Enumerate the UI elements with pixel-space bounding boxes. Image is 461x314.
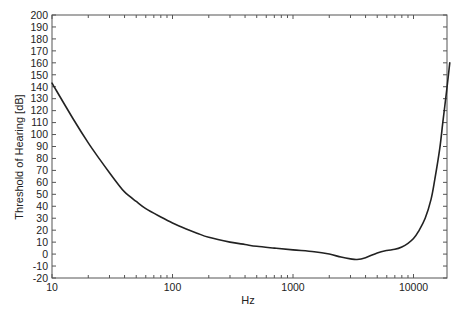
y-tick-label: 140 <box>30 81 48 93</box>
y-tick-label: 160 <box>30 57 48 69</box>
hearing-threshold-chart: -20-100102030405060708090100110120130140… <box>0 0 461 314</box>
y-tick-label: 50 <box>36 188 48 200</box>
y-tick-label: 70 <box>36 164 48 176</box>
x-tick-label: 10 <box>46 281 58 293</box>
threshold-curve <box>52 63 450 260</box>
y-tick-label: 110 <box>31 116 48 128</box>
x-tick-label: 1000 <box>281 281 305 293</box>
y-tick-label: 100 <box>30 128 48 140</box>
y-tick-label: 90 <box>36 140 48 152</box>
y-tick-label: 200 <box>30 9 48 21</box>
y-tick-label: 0 <box>42 248 48 260</box>
x-axis-title: Hz <box>241 294 254 306</box>
y-tick-label: 20 <box>36 224 48 236</box>
plot-frame <box>52 15 447 278</box>
y-axis-title: Threshold of Hearing [dB] <box>13 94 25 219</box>
y-tick-label: 180 <box>30 33 48 45</box>
y-tick-label: -10 <box>33 260 48 272</box>
y-tick-label: 40 <box>36 200 48 212</box>
x-tick-label: 10000 <box>399 281 428 293</box>
axis-ticks <box>52 15 447 278</box>
y-tick-label: 130 <box>30 92 48 104</box>
y-tick-label: 10 <box>36 236 48 248</box>
x-tick-labels: 10100100010000 <box>46 281 428 293</box>
y-tick-label: 120 <box>30 104 48 116</box>
y-tick-label: 170 <box>30 45 48 57</box>
y-tick-label: 30 <box>36 212 48 224</box>
y-tick-labels: -20-100102030405060708090100110120130140… <box>30 9 48 284</box>
x-tick-label: 100 <box>164 281 182 293</box>
y-tick-label: 80 <box>36 152 48 164</box>
y-tick-label: 150 <box>30 69 48 81</box>
y-tick-label: 190 <box>30 21 48 33</box>
y-tick-label: 60 <box>36 176 48 188</box>
